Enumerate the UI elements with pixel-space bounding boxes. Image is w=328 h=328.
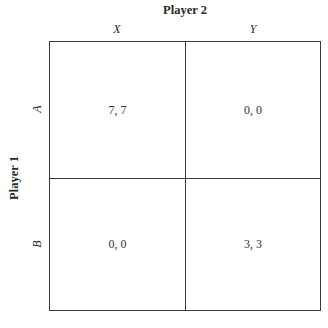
column-strategy-x: X <box>97 22 137 37</box>
payoff-value: 0, 0 <box>109 237 127 252</box>
column-player-label: Player 2 <box>135 3 235 18</box>
row-strategy-a: A <box>30 89 45 129</box>
column-strategy-y: Y <box>233 22 273 37</box>
row-strategy-b: B <box>30 224 45 264</box>
payoff-matrix: 7, 7 0, 0 0, 0 3, 3 <box>49 41 321 311</box>
payoff-cell-b-x: 0, 0 <box>50 179 186 310</box>
payoff-cell-a-x: 7, 7 <box>50 42 186 179</box>
payoff-cell-a-y: 0, 0 <box>186 42 320 179</box>
payoff-value: 7, 7 <box>109 103 127 118</box>
payoff-value: 3, 3 <box>244 237 262 252</box>
payoff-cell-b-y: 3, 3 <box>186 179 320 310</box>
row-player-label: Player 1 <box>7 128 22 228</box>
payoff-value: 0, 0 <box>244 103 262 118</box>
